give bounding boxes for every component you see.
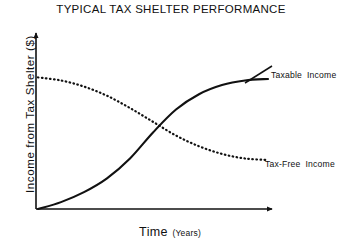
series-label-taxfree-word2: Income [306,159,335,169]
chart-figure: TYPICAL TAX SHELTER PERFORMANCE Income f… [0,0,342,241]
series-label-taxfree-word1: Tax-Free [265,159,301,169]
x-axis-label-unit: (Years) [172,228,201,238]
x-axis-label: Time (Years) [60,222,280,240]
chart-plot-area [0,0,342,241]
series-label-taxable-word1: Taxable [271,70,302,80]
series-line-taxable-income [38,79,268,209]
series-label-taxable-word2: Income [307,70,336,80]
series-label-tax-free-income: Tax-FreeIncome [265,159,335,169]
series-line-tax-free-income [38,77,268,160]
x-axis-label-main: Time [139,225,168,239]
series-label-taxable-income: TaxableIncome [271,70,336,80]
